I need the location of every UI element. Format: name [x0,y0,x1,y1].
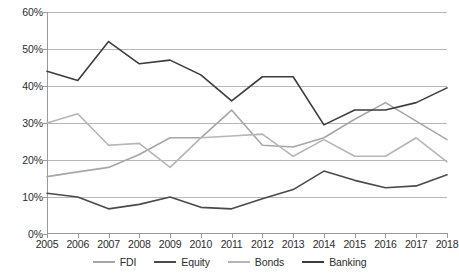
x-axis-tick-label: 2017 [405,238,428,250]
x-axis-tick-label: 2005 [36,238,59,250]
x-axis-tick-label: 2016 [374,238,397,250]
y-axis-tick [42,12,47,13]
x-axis-tick-label: 2010 [190,238,213,250]
y-axis-tick [42,197,47,198]
legend-label-equity: Equity [181,256,210,268]
y-axis-tick [42,123,47,124]
y-axis-tick-label: 20% [3,154,43,166]
x-axis-tick-label: 2012 [251,238,274,250]
line-chart: 0%10%20%30%40%50%60% 2005200620072008200… [0,0,459,280]
legend-swatch-equity [154,261,176,263]
x-axis-tick-label: 2018 [436,238,459,250]
y-axis-labels: 0%10%20%30%40%50%60% [0,12,43,234]
legend-label-banking: Banking [329,256,366,268]
legend-label-fdi: FDI [120,256,137,268]
legend-item-banking[interactable]: Banking [302,256,366,268]
y-axis-tick [42,49,47,50]
legend-label-bonds: Bonds [255,256,284,268]
series-line-fdi [47,103,447,177]
y-axis-tick-label: 10% [3,191,43,203]
x-axis-tick-label: 2015 [343,238,366,250]
y-axis-tick-label: 50% [3,43,43,55]
x-axis-tick-label: 2013 [282,238,305,250]
chart-legend: FDIEquityBondsBanking [0,256,459,268]
x-axis-tick-label: 2007 [97,238,120,250]
y-axis-tick [42,160,47,161]
plot-area [47,12,447,234]
x-axis-labels: 2005200620072008200920102011201220132014… [47,238,447,254]
y-axis-tick-label: 60% [3,6,43,18]
y-axis-tick-label: 30% [3,117,43,129]
legend-swatch-bonds [228,261,250,263]
x-axis-tick-label: 2014 [313,238,336,250]
x-axis-tick-label: 2009 [159,238,182,250]
series-lines [47,12,447,234]
x-axis-tick-label: 2006 [66,238,89,250]
x-axis-tick-label: 2011 [221,238,243,250]
legend-item-fdi[interactable]: FDI [93,256,137,268]
legend-item-bonds[interactable]: Bonds [228,256,284,268]
legend-swatch-banking [302,261,324,263]
series-line-bonds [47,114,447,168]
x-axis-tick-label: 2008 [128,238,151,250]
y-axis-tick [42,86,47,87]
legend-swatch-fdi [93,261,115,263]
y-axis-tick-label: 40% [3,80,43,92]
y-axis-tick [42,234,47,235]
series-line-banking [47,42,447,125]
legend-item-equity[interactable]: Equity [154,256,210,268]
series-line-equity [47,171,447,209]
